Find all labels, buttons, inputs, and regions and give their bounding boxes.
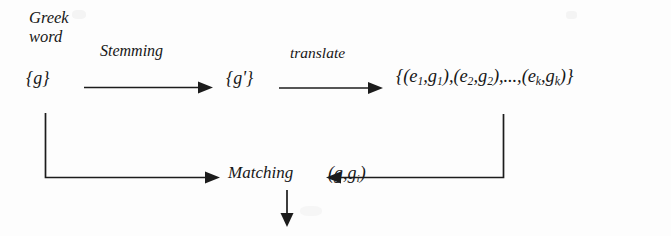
stem-set-close: } bbox=[246, 68, 253, 88]
scan-speck bbox=[566, 11, 577, 19]
connector-wires: {g'} --> translation set --> bbox=[0, 0, 671, 236]
node-matching: Matching bbox=[228, 163, 293, 183]
edge-label-stemming: Stemming bbox=[100, 42, 163, 61]
tset-close1: ),( bbox=[443, 66, 460, 86]
arrow-greek-to-matching bbox=[46, 113, 221, 184]
scan-speck bbox=[72, 10, 86, 19]
arrow-stemming bbox=[84, 82, 213, 94]
stem-set-open: {g bbox=[226, 68, 242, 88]
source-label-line-2: word bbox=[29, 27, 69, 46]
tset-g1: g bbox=[428, 66, 437, 86]
arrow-matching-output bbox=[281, 190, 294, 227]
tset-gk: g bbox=[546, 66, 555, 86]
figure-canvas: Greek word {g} {g'} {(e1,g1),(e2,g2),...… bbox=[0, 0, 671, 236]
tset-close2: ),...,( bbox=[493, 66, 528, 86]
node-match-pair: (g,gi) bbox=[328, 163, 366, 184]
pair-g: g bbox=[334, 163, 343, 183]
node-greek-word-set: {g} bbox=[26, 68, 49, 89]
source-label-line-1: Greek bbox=[29, 8, 69, 27]
tset-ek: e bbox=[528, 66, 536, 86]
tset-open: {( bbox=[396, 66, 409, 86]
node-translation-set: {(e1,g1),(e2,g2),...,(ek,gk)} bbox=[396, 66, 573, 88]
arrow-translate bbox=[279, 82, 383, 94]
scan-speck bbox=[300, 206, 322, 216]
tset-end: )} bbox=[560, 66, 573, 86]
pair-gi: g bbox=[348, 163, 357, 183]
tset-g2: g bbox=[478, 66, 487, 86]
tset-e2: e bbox=[459, 66, 467, 86]
node-stemmed-set: {g'} bbox=[226, 68, 253, 89]
source-label: Greek word bbox=[29, 8, 69, 47]
pair-close: ) bbox=[360, 163, 366, 183]
edge-label-translate: translate bbox=[290, 44, 345, 62]
